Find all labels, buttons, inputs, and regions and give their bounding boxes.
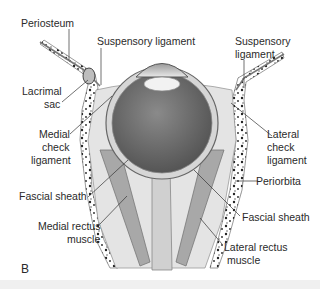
optic-nerve	[152, 165, 172, 270]
bottom-bar	[0, 280, 320, 289]
label-lateral-check-3: ligament	[267, 154, 307, 166]
label-periorbita: Periorbita	[256, 175, 301, 187]
label-medial-check-2: check	[42, 141, 69, 153]
label-suspensory-ligament-right-2: ligament	[235, 48, 275, 60]
label-lacrimal-sac-2: sac	[44, 98, 60, 110]
label-lateral-check-2: check	[267, 141, 294, 153]
label-medial-rectus-1: Medial rectus	[38, 220, 100, 232]
orbit-diagram: Periosteum Suspensory ligament Suspensor…	[0, 0, 320, 289]
lens	[144, 77, 180, 91]
label-fascial-sheath-right: Fascial sheath	[242, 211, 310, 223]
label-lacrimal-sac-1: Lacrimal	[22, 85, 62, 97]
label-periosteum: Periosteum	[21, 17, 74, 29]
label-suspensory-ligament-left: Suspensory ligament	[97, 35, 195, 47]
label-lateral-rectus-1: Lateral rectus	[224, 241, 288, 253]
label-medial-check-3: ligament	[31, 154, 71, 166]
label-lateral-rectus-2: muscle	[227, 254, 260, 266]
label-medial-rectus-2: muscle	[67, 233, 100, 245]
lacrimal-sac-shape	[83, 68, 95, 84]
panel-letter: B	[21, 262, 29, 276]
cornea	[136, 64, 188, 78]
label-suspensory-ligament-right-1: Suspensory	[235, 35, 290, 47]
label-fascial-sheath-left: Fascial sheath	[19, 190, 87, 202]
label-medial-check-1: Medial	[39, 128, 70, 140]
label-lateral-check-1: Lateral	[267, 128, 299, 140]
